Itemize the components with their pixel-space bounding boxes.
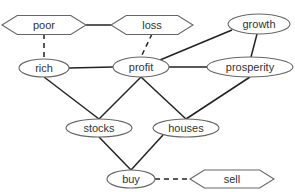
concept-graph-diagram: poorlossgrowthrichprofitprosperitystocks… xyxy=(0,0,295,192)
node-label: poor xyxy=(33,19,55,31)
nodes-layer: poorlossgrowthrichprofitprosperitystocks… xyxy=(2,14,293,188)
edge-stocks-buy xyxy=(99,137,131,170)
edge-houses-buy xyxy=(131,135,163,170)
node-label: rich xyxy=(35,62,53,74)
node-label: buy xyxy=(122,173,140,185)
node-profit: profit xyxy=(113,57,169,77)
edge-profit-stocks xyxy=(99,77,141,119)
node-prosperity: prosperity xyxy=(207,57,293,77)
node-label: prosperity xyxy=(226,61,275,73)
edge-prosperity-houses xyxy=(186,77,250,119)
node-houses: houses xyxy=(153,119,219,137)
node-growth: growth xyxy=(228,14,290,34)
edge-profit-houses xyxy=(141,77,186,119)
edges-layer xyxy=(44,25,257,179)
node-poor: poor xyxy=(2,16,86,35)
edge-rich-stocks xyxy=(44,77,99,119)
graph-canvas: poorlossgrowthrichprofitprosperitystocks… xyxy=(0,0,295,192)
edge-rich-profit xyxy=(69,67,113,68)
node-label: houses xyxy=(168,122,204,134)
node-stocks: stocks xyxy=(66,119,132,137)
node-label: loss xyxy=(142,19,162,31)
node-label: profit xyxy=(129,61,153,73)
node-label: sell xyxy=(224,173,241,185)
edge-loss-profit xyxy=(141,34,152,57)
node-label: growth xyxy=(242,18,275,30)
edge-growth-prosperity xyxy=(251,34,257,57)
node-buy: buy xyxy=(107,170,155,188)
node-label: stocks xyxy=(83,122,115,134)
node-rich: rich xyxy=(19,59,69,77)
node-sell: sell xyxy=(190,170,274,188)
node-loss: loss xyxy=(111,16,193,35)
